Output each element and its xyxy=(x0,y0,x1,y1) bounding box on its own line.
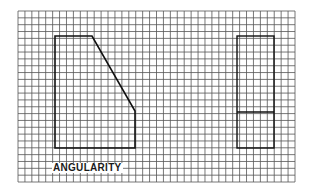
angularity-diagram: ANGULARITY xyxy=(0,0,310,189)
drawing-canvas xyxy=(0,0,310,189)
diagram-title-label: ANGULARITY xyxy=(52,163,123,173)
angled-block-front-view xyxy=(55,36,135,148)
block-side-view xyxy=(237,36,274,148)
